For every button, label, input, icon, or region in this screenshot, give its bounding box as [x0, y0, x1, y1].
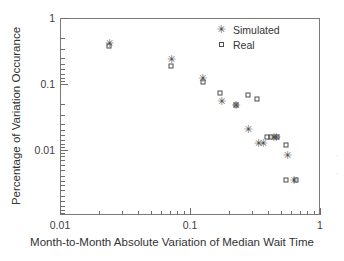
star-glyph: ✳	[216, 24, 225, 35]
x-minor-tick	[300, 211, 301, 215]
data-point-real	[275, 134, 280, 139]
y-minor-tick	[61, 176, 65, 177]
legend-label-real: Real	[229, 39, 255, 51]
x-major-tick	[190, 208, 191, 215]
y-minor-tick	[61, 181, 65, 182]
data-point-real	[284, 143, 289, 148]
y-minor-tick	[61, 124, 65, 125]
y-minor-tick	[61, 156, 65, 157]
legend-item-simulated: ✳ Simulated	[213, 22, 280, 37]
data-point-real	[269, 134, 274, 139]
data-point-real	[107, 44, 112, 49]
y-minor-tick	[61, 69, 65, 70]
y-major-tick	[61, 84, 68, 85]
y-tick-label: 0.01	[24, 144, 55, 156]
x-minor-tick	[170, 211, 171, 215]
x-minor-tick	[184, 211, 185, 215]
x-major-tick	[320, 208, 321, 215]
data-point-real	[246, 93, 251, 98]
data-point-real	[217, 91, 222, 96]
data-point-real	[233, 103, 238, 108]
y-major-tick	[61, 18, 68, 19]
x-tick-label: 0.1	[183, 219, 198, 231]
x-minor-tick	[307, 211, 308, 215]
y-tick-label: 1	[24, 12, 55, 24]
open-square-marker-icon	[213, 37, 229, 52]
y-minor-tick	[61, 160, 65, 161]
y-minor-tick	[61, 104, 65, 105]
data-point-real	[284, 178, 289, 183]
x-minor-tick	[138, 211, 139, 215]
data-point-real	[169, 63, 174, 68]
x-minor-tick	[252, 211, 253, 215]
y-minor-tick	[61, 147, 65, 148]
y-minor-tick	[61, 170, 65, 171]
y-minor-tick	[61, 196, 65, 197]
data-point-simulated: ✳	[217, 96, 226, 107]
scan-artifact: ·	[336, 152, 338, 159]
x-minor-tick	[268, 211, 269, 215]
y-minor-tick	[61, 206, 65, 207]
y-major-tick	[61, 150, 68, 151]
data-point-real	[293, 178, 298, 183]
y-minor-tick	[61, 74, 65, 75]
y-minor-tick	[61, 144, 65, 145]
y-minor-tick	[61, 135, 65, 136]
y-minor-tick	[61, 165, 65, 166]
x-minor-tick	[151, 211, 152, 215]
y-minor-tick	[61, 213, 65, 214]
x-tick-label: 1	[317, 219, 323, 231]
y-minor-tick	[61, 153, 65, 154]
x-minor-tick	[161, 211, 162, 215]
y-minor-tick	[61, 190, 65, 191]
star-marker-icon: ✳	[213, 22, 229, 37]
y-minor-tick	[61, 64, 65, 65]
y-minor-tick	[61, 201, 65, 202]
y-minor-tick	[61, 38, 65, 39]
data-point-simulated: ✳	[283, 149, 292, 160]
y-minor-tick	[61, 58, 65, 59]
x-minor-tick	[281, 211, 282, 215]
y-minor-tick	[61, 140, 65, 141]
y-minor-tick	[61, 49, 65, 50]
x-minor-tick	[291, 211, 292, 215]
chart-legend: ✳ Simulated Real	[213, 22, 280, 52]
y-minor-tick	[61, 115, 65, 116]
data-point-simulated: ✳	[244, 123, 253, 134]
y-minor-tick	[61, 78, 65, 79]
x-minor-tick	[177, 211, 178, 215]
x-minor-tick	[314, 211, 315, 215]
plot-area	[60, 18, 320, 215]
x-minor-tick	[122, 211, 123, 215]
y-minor-tick	[61, 185, 65, 186]
legend-item-real: Real	[213, 37, 280, 52]
chart-figure: Month-to-Month Absolute Variation of Med…	[0, 0, 344, 261]
square-glyph	[219, 42, 224, 47]
data-point-real	[255, 96, 260, 101]
y-minor-tick	[61, 210, 65, 211]
y-minor-tick	[61, 81, 65, 82]
x-tick-label: 0.01	[50, 219, 70, 231]
legend-label-simulated: Simulated	[229, 24, 280, 36]
y-axis-title: Percentage of Variation Occurance	[10, 16, 22, 216]
data-point-real	[200, 79, 205, 84]
y-tick-label: 0.1	[24, 78, 55, 90]
scan-artifact: ·	[336, 170, 338, 177]
y-minor-tick	[61, 130, 65, 131]
x-minor-tick	[229, 211, 230, 215]
x-minor-tick	[99, 211, 100, 215]
x-axis-title: Month-to-Month Absolute Variation of Med…	[0, 236, 344, 248]
